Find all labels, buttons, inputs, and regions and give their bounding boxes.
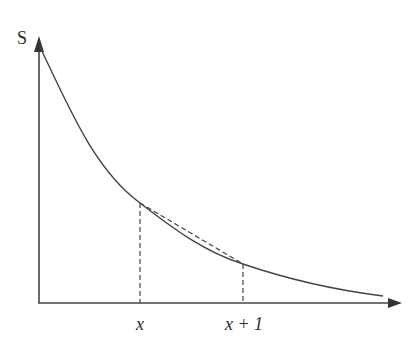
x-tick-label-x-plus-1: x + 1 [224, 314, 263, 334]
y-axis-label: S [17, 28, 27, 48]
secant-chord [140, 203, 243, 264]
x-axis [38, 298, 402, 308]
x-axis-arrow-icon [388, 298, 402, 308]
y-axis-arrow-icon [34, 36, 44, 52]
x-tick-label-x: x [135, 314, 144, 334]
diagram-canvas: S x x + 1 [0, 0, 420, 348]
y-axis [34, 36, 44, 303]
curve-s [40, 47, 383, 296]
